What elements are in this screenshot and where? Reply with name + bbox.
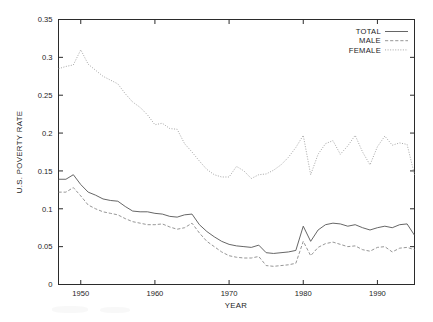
chart-legend: TOTALMALEFEMALE: [349, 27, 408, 54]
x-tick-label: 1960: [146, 289, 163, 298]
y-axis: 00.050.10.150.20.250.30.35: [38, 15, 415, 289]
y-tick-label: 0.05: [38, 242, 53, 251]
x-tick-label: 1980: [295, 289, 312, 298]
x-tick-label: 1950: [72, 289, 89, 298]
y-tick-label: 0: [48, 280, 52, 289]
x-tick-label: 1990: [369, 289, 386, 298]
x-axis-title: YEAR: [225, 301, 248, 310]
legend-label-male: MALE: [359, 36, 381, 45]
y-tick-label: 0.25: [38, 91, 53, 100]
plot-frame: [59, 20, 415, 285]
legend-label-total: TOTAL: [356, 27, 381, 36]
y-tick-label: 0.3: [42, 53, 53, 62]
series-line-total: [59, 175, 415, 254]
series-group: [59, 50, 415, 267]
figure-container: 00.050.10.150.20.250.30.35 1950196019701…: [0, 0, 433, 322]
series-line-female: [59, 50, 415, 179]
y-axis-title: U.S. POVERTY RATE: [15, 111, 24, 194]
y-tick-label: 0.2: [42, 129, 53, 138]
poverty-rate-line-chart: 00.050.10.150.20.250.30.35 1950196019701…: [0, 0, 433, 322]
legend-label-female: FEMALE: [349, 46, 381, 55]
x-tick-label: 1970: [221, 289, 238, 298]
y-tick-label: 0.15: [38, 167, 53, 176]
y-tick-label: 0.35: [38, 15, 53, 24]
y-tick-label: 0.1: [42, 205, 53, 214]
